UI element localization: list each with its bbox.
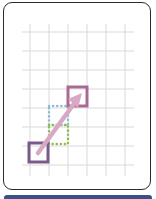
footer-bar	[4, 195, 152, 199]
grid-move-icon	[0, 0, 156, 199]
